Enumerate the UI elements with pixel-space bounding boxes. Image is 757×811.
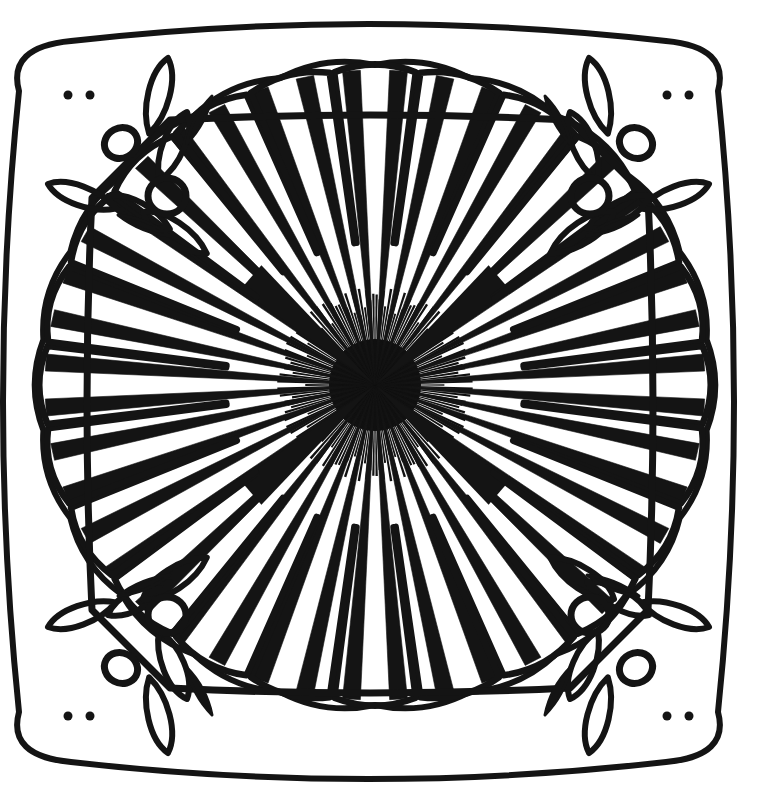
- mandala-artwork: [0, 0, 757, 811]
- frame-nub-top: [64, 91, 73, 100]
- frame-nub-left: [86, 712, 95, 721]
- frame-nub-top: [685, 712, 694, 721]
- frame-nub-left: [663, 91, 672, 100]
- frame-nub-left: [663, 712, 672, 721]
- frame-nub-top: [64, 712, 73, 721]
- frame-nub-left: [86, 91, 95, 100]
- frame-nub-top: [685, 91, 694, 100]
- mandala-canvas: [0, 0, 757, 811]
